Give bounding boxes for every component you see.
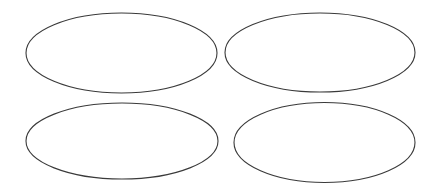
background xyxy=(0,0,438,190)
diagram-canvas xyxy=(0,0,438,190)
